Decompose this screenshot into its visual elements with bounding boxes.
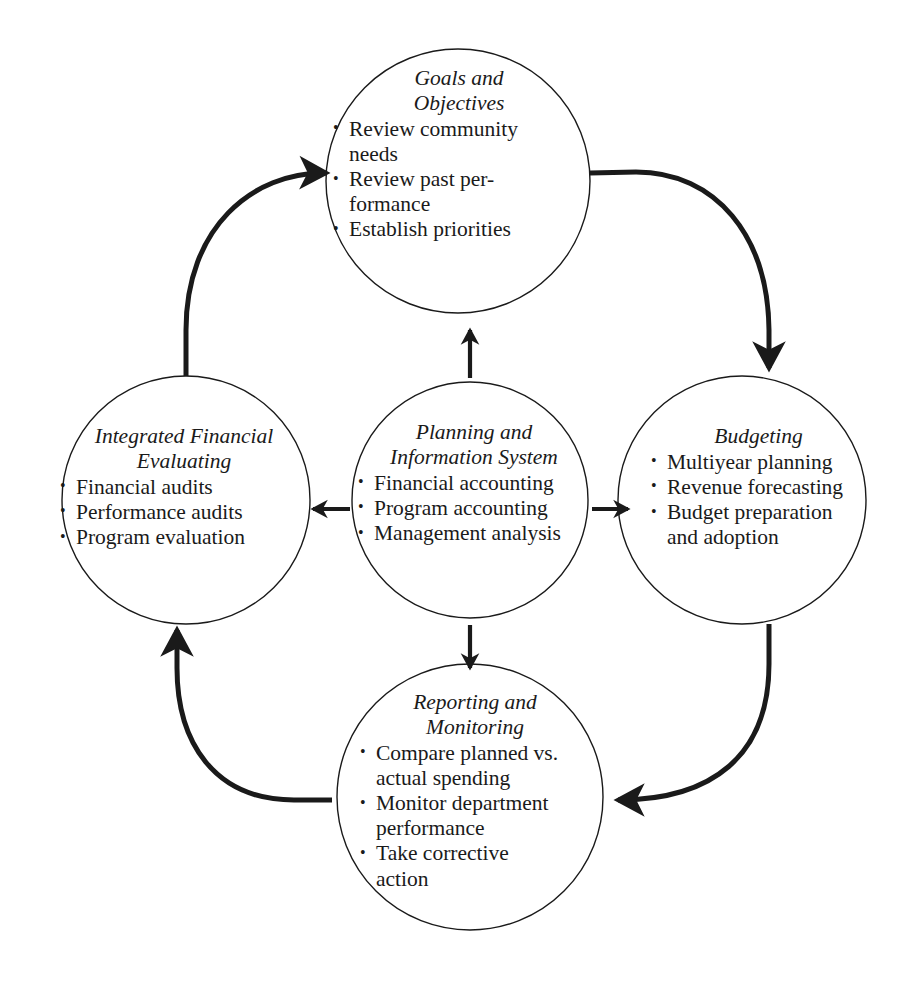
node-planning-title: Planning and Information System [358,420,590,470]
bullet-icon: • [60,499,66,523]
bullet-icon: • [360,841,366,865]
list-item: •Performance audits [60,500,308,525]
node-reporting-list: •Compare planned vs. actual spending •Mo… [360,741,590,892]
bullet-icon: • [333,116,339,140]
list-item: •Monitor department performance [360,791,590,841]
node-goals-title: Goals and Objectives [333,66,585,116]
list-item: •Program evaluation [60,525,308,550]
bullet-icon: • [651,500,657,524]
list-item: •Take corrective action [360,841,590,891]
node-reporting: Reporting and Monitoring •Compare planne… [360,690,590,892]
node-budgeting: Budgeting •Multiyear planning •Revenue f… [651,424,866,551]
bullet-icon: • [358,495,364,519]
list-item: •Multiyear planning [651,450,866,475]
node-planning: Planning and Information System •Financi… [358,420,590,546]
bullet-icon: • [358,470,364,494]
list-item: •Management analysis [358,521,590,546]
bullet-icon: • [60,474,66,498]
node-reporting-title: Reporting and Monitoring [360,690,590,740]
list-item: •Review community needs [333,117,585,167]
list-item: •Compare planned vs. actual spending [360,741,590,791]
list-item: •Review past per- formance [333,167,585,217]
bullet-icon: • [333,217,339,241]
list-item: •Revenue forecasting [651,475,866,500]
node-evaluating-title: Integrated Financial Evaluating [60,424,308,474]
node-evaluating: Integrated Financial Evaluating •Financi… [60,424,308,550]
arc-reporting-to-evaluating [177,630,332,800]
list-item: •Establish priorities [333,217,585,242]
node-budgeting-title: Budgeting [651,424,866,449]
node-budgeting-list: •Multiyear planning •Revenue forecasting… [651,450,866,551]
bullet-icon: • [358,521,364,545]
list-item: •Financial accounting [358,471,590,496]
list-item: •Financial audits [60,475,308,500]
diagram-canvas: Goals and Objectives •Review community n… [0,0,915,981]
list-item: •Program accounting [358,496,590,521]
list-item: •Budget preparation and adoption [651,500,866,550]
bullet-icon: • [360,791,366,815]
bullet-icon: • [360,740,366,764]
node-goals-list: •Review community needs •Review past per… [333,117,585,243]
node-planning-list: •Financial accounting •Program accountin… [358,471,590,546]
node-goals: Goals and Objectives •Review community n… [333,66,585,243]
bullet-icon: • [651,449,657,473]
arc-goals-to-budgeting [590,172,769,368]
bullet-icon: • [333,167,339,191]
bullet-icon: • [651,474,657,498]
node-evaluating-list: •Financial audits •Performance audits •P… [60,475,308,550]
arc-evaluating-to-goals [186,173,326,376]
arc-budgeting-to-reporting [618,624,769,800]
bullet-icon: • [60,525,66,549]
